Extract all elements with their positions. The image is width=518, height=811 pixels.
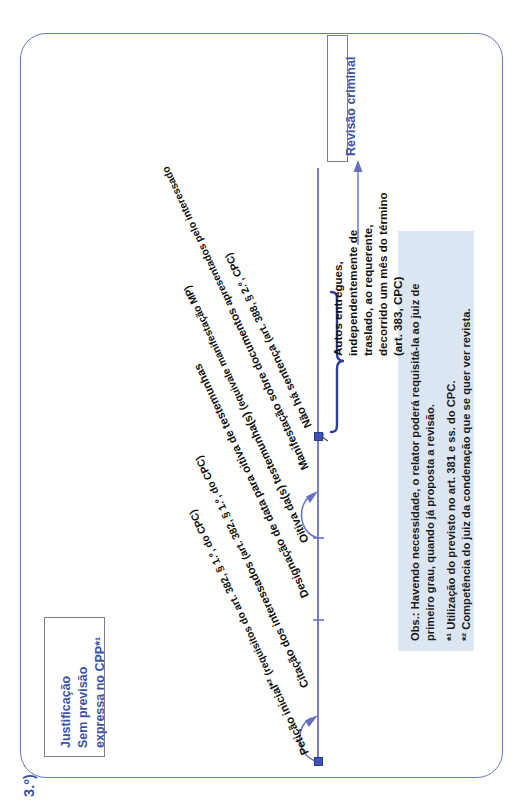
timeline-node-top <box>314 432 323 441</box>
notes-line-2: primeiro grau, quando já proposta a revi… <box>424 404 436 641</box>
start-box-line-2: Sem previsão <box>76 667 90 748</box>
end-box-revisao-criminal: Revisão criminal <box>327 35 348 162</box>
final-note-l4: decorrido um mês do término <box>375 192 390 356</box>
final-note-l5: (art. 383, CPC) <box>390 192 405 356</box>
notes-line-1: Obs.: Havendo necessidade, o relator pod… <box>409 284 421 641</box>
notes-line-3: *¹ Utilização do previsto no art. 381 e … <box>445 381 457 642</box>
notes-panel: Obs.: Havendo necessidade, o relator pod… <box>398 231 474 651</box>
start-box-justificacao: Justificação Sem previsão expressa no CP… <box>44 617 105 757</box>
final-note: Autos entregues, independentemente de tr… <box>330 192 405 356</box>
start-box-line-3: expressa no CPP*¹ <box>93 637 107 748</box>
final-note-l1: Autos entregues, <box>330 192 345 356</box>
timeline-node-bottom <box>314 757 323 766</box>
end-box-label: Revisão criminal <box>343 57 359 156</box>
final-note-l3: traslado, ao requerente, <box>360 192 375 356</box>
start-box-line-1: Justificação <box>59 676 73 748</box>
final-note-l2: independentemente de <box>345 192 360 356</box>
notes-line-4: *² Competência do juiz da condenação que… <box>460 308 472 641</box>
diagram-page: 3.º) Justificação Revisão criminal <box>0 0 518 811</box>
